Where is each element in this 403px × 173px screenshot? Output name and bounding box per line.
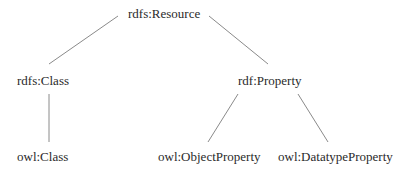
edge-resource-class xyxy=(49,16,118,64)
node-rdfs-resource: rdfs:Resource xyxy=(128,6,200,22)
node-rdf-property: rdf:Property xyxy=(238,73,302,89)
class-hierarchy-diagram: rdfs:Resource rdfs:Class rdf:Property ow… xyxy=(0,0,403,173)
node-owl-datatype-property: owl:DatatypeProperty xyxy=(278,149,393,165)
edge-property-objectproperty xyxy=(208,94,238,142)
node-owl-class: owl:Class xyxy=(17,149,68,165)
edge-resource-property xyxy=(209,16,268,64)
node-rdfs-class: rdfs:Class xyxy=(17,73,69,89)
node-owl-object-property: owl:ObjectProperty xyxy=(158,149,261,165)
edge-property-datatypeproperty xyxy=(298,94,328,142)
